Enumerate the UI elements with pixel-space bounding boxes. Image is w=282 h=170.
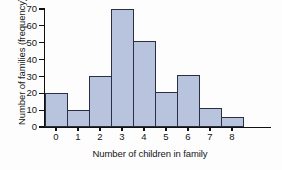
- y-tick-label-10: 10: [0, 105, 37, 115]
- x-tick-label-8: 8: [220, 132, 244, 142]
- y-tick-label-0: 0: [0, 122, 37, 132]
- y-tick-label-50: 50: [0, 38, 37, 48]
- histogram-bar: [133, 41, 156, 127]
- histogram-bar: [221, 117, 244, 127]
- y-tick-label-30: 30: [0, 72, 37, 82]
- bars-layer: [45, 9, 282, 127]
- histogram-bar: [199, 108, 222, 127]
- histogram-bar: [155, 92, 178, 127]
- x-tick-label-4: 4: [132, 132, 156, 142]
- x-tick-label-2: 2: [88, 132, 112, 142]
- x-tick-label-6: 6: [176, 132, 200, 142]
- histogram-bar: [177, 75, 200, 127]
- histogram-bar: [67, 110, 90, 127]
- x-tick-label-7: 7: [198, 132, 222, 142]
- histogram-bar: [89, 76, 112, 127]
- y-tick-label-20: 20: [0, 88, 37, 98]
- x-tick-label-0: 0: [44, 132, 68, 142]
- y-tick-label-40: 40: [0, 55, 37, 65]
- x-tick-label-3: 3: [110, 132, 134, 142]
- y-tick-label-60: 60: [0, 21, 37, 31]
- x-axis-title: Number of children in family: [30, 148, 270, 159]
- y-tick-label-70: 70: [0, 4, 37, 14]
- x-tick-label-5: 5: [154, 132, 178, 142]
- histogram-bar: [45, 93, 68, 127]
- x-tick-label-1: 1: [66, 132, 90, 142]
- histogram-figure: Number of families (frequency) 010203040…: [0, 0, 282, 170]
- histogram-bar: [111, 9, 134, 127]
